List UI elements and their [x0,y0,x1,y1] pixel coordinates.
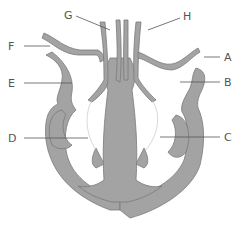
heart-structure [42,20,205,218]
right-valve-outline [146,100,158,150]
heart-diagram: G H F A E B D C [0,0,241,227]
label-b: B [224,76,232,89]
central-vessel-left [116,20,121,82]
label-h: H [183,10,191,23]
central-vessel-right [124,20,128,80]
label-f: F [8,40,14,53]
label-g: G [64,9,73,22]
right-papillary-muscle [136,148,148,168]
left-valve-outline [87,100,96,150]
leader-h [148,18,180,30]
label-d: D [8,132,16,145]
left-papillary-muscle [92,148,104,168]
vessel-a [138,48,200,70]
vessel-g [88,22,108,102]
label-c: C [224,131,232,144]
label-e: E [8,77,15,90]
label-a: A [224,51,232,64]
right-atrium-pocket [168,115,189,157]
